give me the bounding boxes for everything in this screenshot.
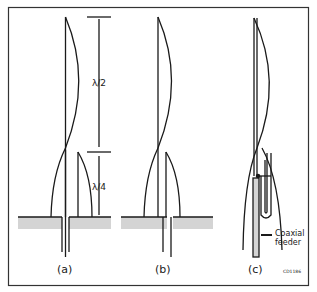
panel-label-a: (a) <box>57 263 72 276</box>
coaxial-feeder <box>253 178 259 257</box>
figure-code: CD1186 <box>283 269 301 274</box>
coax-label-line2: feeder <box>275 238 302 247</box>
quarter-wave-label: λ/4 <box>92 182 106 192</box>
panel-label-c: (c) <box>248 263 263 276</box>
ground-plane-a2 <box>69 217 111 229</box>
panel-c <box>243 18 282 257</box>
panel-b <box>121 17 213 257</box>
half-wave-label: λ/2 <box>92 78 106 88</box>
panel-a <box>18 17 111 257</box>
coax-label-line1: Coaxial <box>275 229 304 238</box>
antenna-diagram: λ/2 λ/4 Coaxial feeder <box>0 0 317 292</box>
ground-plane-a <box>18 217 62 229</box>
panel-label-b: (b) <box>155 263 171 276</box>
